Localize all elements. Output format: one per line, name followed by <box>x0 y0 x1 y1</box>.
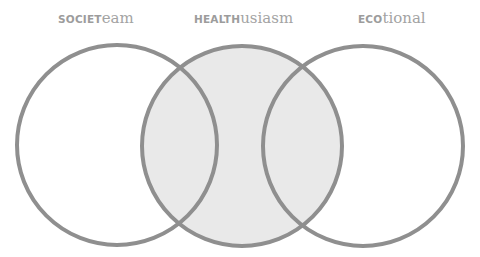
venn-diagram <box>0 0 480 257</box>
